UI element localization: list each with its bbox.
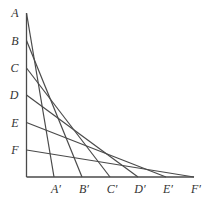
point-label-f-prime: F′	[190, 182, 201, 196]
point-label-c: C	[10, 61, 19, 75]
horizontal-axis-labels: A′B′C′D′E′F′	[50, 182, 201, 196]
point-label-b-prime: B′	[79, 182, 89, 196]
point-label-a: A	[10, 6, 19, 20]
envelope-diagram: ABCDEF A′B′C′D′E′F′	[0, 0, 215, 203]
point-label-d: D	[9, 88, 19, 102]
vertical-axis-labels: ABCDEF	[9, 6, 20, 157]
point-label-d-prime: D′	[133, 182, 146, 196]
point-label-b: B	[11, 34, 19, 48]
point-label-a-prime: A′	[50, 182, 61, 196]
segment-1	[27, 41, 83, 178]
point-label-c-prime: C′	[107, 182, 118, 196]
point-label-e: E	[10, 116, 19, 130]
segment-2	[27, 68, 111, 177]
diagram-canvas: ABCDEF A′B′C′D′E′F′	[0, 0, 215, 203]
point-label-f: F	[10, 143, 19, 157]
point-label-e-prime: E′	[162, 182, 173, 196]
connecting-segments	[27, 13, 195, 177]
axes	[27, 13, 195, 177]
